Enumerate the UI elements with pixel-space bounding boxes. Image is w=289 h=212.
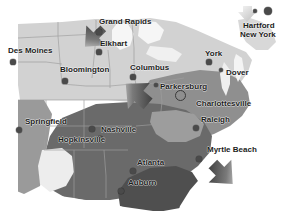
city-dot-nashville[interactable]: [89, 126, 95, 132]
city-dot-york[interactable]: [206, 59, 211, 64]
city-dot-raleigh[interactable]: [193, 125, 199, 131]
city-dot-grand-rapids[interactable]: [96, 29, 101, 34]
city-dot-auburn[interactable]: [118, 188, 124, 194]
city-label-nashville: Nashville: [101, 125, 136, 134]
city-label-springfield: Springfield: [25, 117, 67, 126]
city-dot-springfield[interactable]: [16, 127, 22, 133]
city-label-des-moines: Des Moines: [8, 46, 52, 55]
city-label-hopkinsville: Hopkinsville: [58, 135, 105, 144]
city-label-raleigh: Raleigh: [201, 115, 230, 124]
city-label-bloomington: Bloomington: [60, 65, 109, 74]
selection-ring-charlottesville[interactable]: [175, 90, 186, 101]
city-label-columbus: Columbus: [130, 63, 169, 72]
city-dot-bloomington[interactable]: [62, 78, 67, 83]
city-dot-atlanta[interactable]: [130, 168, 136, 174]
city-label-charlottesville: Charlottesville: [196, 99, 251, 108]
city-label-myrtle-beach: Myrtle Beach: [207, 145, 257, 154]
city-label-dover: Dover: [226, 68, 249, 77]
city-label-atlanta: Atlanta: [137, 158, 164, 167]
city-label-parkersburg: Parkersburg: [160, 82, 207, 91]
city-label-auburn: Auburn: [128, 178, 156, 187]
city-dot-columbus[interactable]: [130, 74, 135, 79]
city-label-york: York: [205, 49, 222, 58]
city-label-new-york: New York: [240, 30, 276, 39]
city-dot-elkhart[interactable]: [96, 49, 101, 54]
city-label-elkhart: Elkhart: [100, 39, 127, 48]
city-dot-myrtle-beach[interactable]: [196, 156, 202, 162]
city-label-hartford: Hartford: [243, 21, 275, 30]
city-dot-des-moines[interactable]: [10, 59, 15, 64]
city-dot-parkersburg[interactable]: [154, 83, 158, 87]
city-label-grand-rapids: Grand Rapids: [99, 17, 151, 26]
map-viewport[interactable]: Des MoinesGrand RapidsElkhartBloomington…: [0, 0, 289, 212]
